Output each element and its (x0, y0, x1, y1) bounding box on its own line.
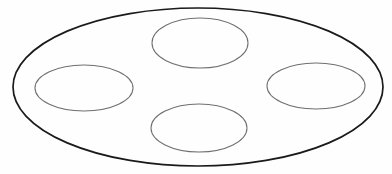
ellipse-diagram (0, 0, 392, 174)
diagram-canvas (0, 0, 392, 174)
outer-ellipse (13, 8, 383, 166)
bottom-inner-ellipse (151, 104, 247, 152)
left-inner-ellipse (35, 65, 133, 111)
right-inner-ellipse (267, 63, 365, 109)
top-inner-ellipse (152, 18, 248, 68)
